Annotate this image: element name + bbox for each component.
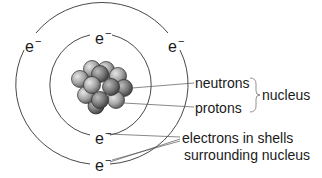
electron-charge: − [105,127,111,139]
label-neutrons: neutrons [195,76,249,90]
electron-symbol: e [168,38,177,55]
electron-outer-left: e− [25,36,41,55]
electron-charge: − [105,27,111,39]
label-electrons-line1: electrons in shells [182,131,293,145]
electron-charge: − [105,154,111,166]
electron-symbol: e [95,30,104,47]
electron-charge: − [178,35,184,47]
nucleus-brace [250,78,260,112]
electron-symbol: e [95,130,104,147]
electron-symbol: e [25,38,34,55]
electron-symbol: e [95,157,104,174]
label-protons: protons [195,101,242,115]
label-nucleus: nucleus [262,88,310,102]
electron-charge: − [35,35,41,47]
nucleus-cluster [72,61,133,115]
electron-outer-right: e− [168,36,184,55]
label-electrons-line2: surrounding nucleus [184,148,310,162]
electron-inner-top: e− [95,28,111,47]
electron-inner-bottom: e− [95,128,111,147]
electron-outer-bottom: e− [95,155,111,174]
